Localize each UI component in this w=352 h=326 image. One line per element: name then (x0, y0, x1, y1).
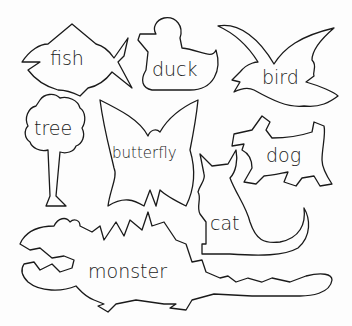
duck-label: duck (152, 58, 198, 80)
monster-label: monster (88, 260, 167, 282)
dog-label: dog (266, 144, 301, 166)
cat-label: cat (210, 212, 240, 234)
fish-label: fish (50, 47, 84, 69)
tree-outline (25, 94, 85, 206)
monster-outline (20, 212, 332, 312)
butterfly-label: butterfly (112, 144, 177, 162)
coloring-page: fish duck bird tree butterfly dog cat mo… (0, 0, 352, 326)
tree-label: tree (34, 117, 72, 139)
bird-label: bird (262, 66, 299, 88)
